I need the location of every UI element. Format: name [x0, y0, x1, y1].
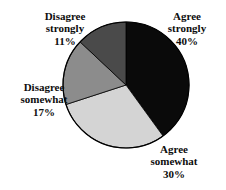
pie-label-agree-strongly: Agree strongly 40%	[150, 10, 224, 47]
pie-label-disagree-somewhat-value: 17%	[0, 106, 88, 118]
pie-chart: Agree strongly 40% Disagree strongly 11%…	[0, 0, 226, 190]
pie-label-agree-somewhat-line2: somewhat	[128, 155, 220, 167]
pie-label-disagree-somewhat-line1: Disagree	[0, 81, 88, 93]
pie-label-disagree-strongly-line2: strongly	[26, 22, 104, 34]
pie-label-agree-strongly-line1: Agree	[150, 10, 224, 22]
pie-label-disagree-strongly: Disagree strongly 11%	[26, 10, 104, 47]
pie-label-agree-somewhat-line1: Agree	[128, 143, 220, 155]
pie-label-agree-somewhat-value: 30%	[128, 168, 220, 180]
pie-label-disagree-strongly-value: 11%	[26, 35, 104, 47]
pie-label-disagree-somewhat-line2: somewhat	[0, 93, 88, 105]
pie-label-disagree-somewhat: Disagree somewhat 17%	[0, 81, 88, 118]
pie-label-agree-strongly-line2: strongly	[150, 22, 224, 34]
pie-label-agree-somewhat: Agree somewhat 30%	[128, 143, 220, 180]
pie-label-disagree-strongly-line1: Disagree	[26, 10, 104, 22]
pie-label-agree-strongly-value: 40%	[150, 35, 224, 47]
